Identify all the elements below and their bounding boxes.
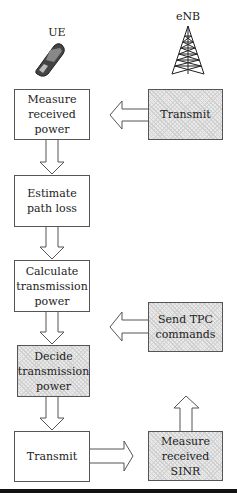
arrow-down-4 xyxy=(40,397,64,430)
ue-label: UE xyxy=(40,26,74,39)
arrow-down-3 xyxy=(40,312,64,344)
cell-tower-icon xyxy=(172,26,204,74)
box-estimate-path-loss: Estimate path loss xyxy=(14,175,90,227)
box-transmit-enb: Transmit xyxy=(148,89,223,140)
arrow-right xyxy=(90,441,133,471)
arrow-down-2 xyxy=(40,227,64,259)
arrow-left-2 xyxy=(110,312,148,341)
box-transmit-ue: Transmit xyxy=(14,431,90,482)
box-measure-received-sinr: Measure received SINR xyxy=(148,431,223,481)
enb-label: eNB xyxy=(170,10,206,23)
box-measure-received-power: Measure received power xyxy=(14,89,90,140)
arrow-left-1 xyxy=(110,101,148,129)
box-send-tpc-commands: Send TPC commands xyxy=(148,302,223,352)
box-calculate-transmission-power: Calculate transmission power xyxy=(14,260,90,312)
arrow-down-1 xyxy=(40,140,64,174)
box-decide-transmission-power: Decide transmission power xyxy=(17,345,90,397)
mobile-phone-icon xyxy=(36,44,65,77)
bottom-rule xyxy=(0,489,237,493)
tpc-flow-diagram: UE eNB Measure received power Estimate p… xyxy=(0,0,237,501)
arrow-up xyxy=(174,396,199,431)
diagram-graphics xyxy=(0,0,237,501)
